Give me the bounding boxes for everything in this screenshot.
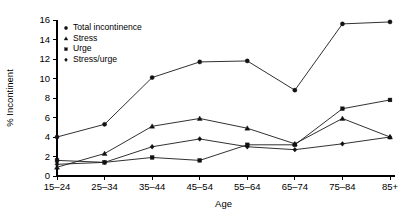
y-axis-title: % Incontinent xyxy=(4,69,15,127)
x-tick-group: 15–2425–3435–4445–5455–6465–7475–8485+ xyxy=(44,176,399,192)
marker-circle xyxy=(245,59,249,63)
y-tick-label: 2 xyxy=(45,151,50,162)
legend-item-label: Urge xyxy=(73,43,92,53)
marker-square xyxy=(198,159,202,163)
series-line xyxy=(57,100,390,162)
marker-circle xyxy=(388,20,392,24)
marker-circle xyxy=(55,135,59,139)
marker-circle xyxy=(150,75,154,79)
marker-triangle xyxy=(64,37,68,40)
y-tick-label: 12 xyxy=(39,53,50,64)
y-tick-label: 10 xyxy=(39,73,50,84)
marker-triangle xyxy=(102,151,107,155)
chart-canvas: 0246810121416 15–2425–3435–4445–5455–646… xyxy=(0,0,401,221)
marker-diamond xyxy=(198,137,202,142)
marker-triangle xyxy=(340,116,345,120)
marker-square xyxy=(388,98,392,102)
x-tick-label: 65–74 xyxy=(282,181,308,192)
x-axis: 15–2425–3435–4445–5455–6465–7475–8485+ xyxy=(44,176,399,192)
y-tick-label: 4 xyxy=(45,131,50,142)
legend-item: Total incontinence xyxy=(64,22,142,32)
x-tick-label: 45–54 xyxy=(187,181,213,192)
marker-diamond xyxy=(293,147,297,152)
marker-circle xyxy=(340,22,344,26)
legend-item: Stress xyxy=(64,33,97,43)
marker-circle xyxy=(198,60,202,64)
x-tick-label: 25–34 xyxy=(91,181,117,192)
y-tick-group: 0246810121416 xyxy=(39,14,57,181)
legend-item: Stress/urge xyxy=(64,54,117,64)
series-group xyxy=(55,20,393,169)
marker-circle xyxy=(293,88,297,92)
marker-circle xyxy=(102,122,106,126)
marker-circle xyxy=(64,26,67,29)
legend-item-label: Total incontinence xyxy=(73,22,142,32)
series-total-incontinence xyxy=(55,20,392,139)
marker-diamond xyxy=(55,162,59,167)
x-tick-label: 85+ xyxy=(382,181,399,192)
x-tick-label: 75–84 xyxy=(329,181,355,192)
marker-triangle xyxy=(197,116,202,120)
chart-legend: Total incontinenceStressUrgeStress/urge xyxy=(64,22,142,64)
y-tick-label: 6 xyxy=(45,112,50,123)
legend-item: Urge xyxy=(65,43,92,53)
series-stress-urge xyxy=(55,135,392,167)
x-tick-label: 35–44 xyxy=(139,181,165,192)
y-tick-label: 16 xyxy=(39,14,50,25)
marker-square xyxy=(150,156,154,160)
legend-item-label: Stress xyxy=(73,33,97,43)
y-tick-label: 0 xyxy=(45,170,50,181)
marker-diamond xyxy=(150,144,154,149)
y-tick-label: 8 xyxy=(45,92,50,103)
y-axis: 0246810121416 xyxy=(39,14,57,181)
x-tick-label: 15–24 xyxy=(44,181,70,192)
incontinence-by-age-chart: 0246810121416 15–2425–3435–4445–5455–646… xyxy=(0,0,401,221)
series-line xyxy=(57,137,390,164)
y-tick-label: 14 xyxy=(39,34,50,45)
marker-diamond xyxy=(64,58,67,62)
x-tick-label: 55–64 xyxy=(234,181,260,192)
legend-item-label: Stress/urge xyxy=(73,54,117,64)
marker-square xyxy=(341,107,345,111)
marker-diamond xyxy=(340,141,344,146)
x-axis-title: Age xyxy=(215,198,232,209)
marker-square xyxy=(65,48,68,51)
marker-square xyxy=(293,143,297,147)
